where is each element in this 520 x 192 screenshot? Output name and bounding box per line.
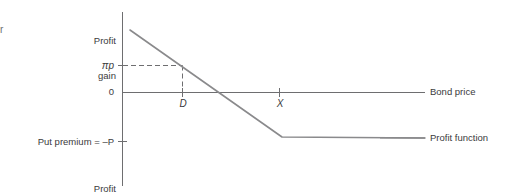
y-tick-label-pi-p: πp (78, 60, 114, 72)
x-tick-label-x: X (269, 98, 291, 110)
y-tick-label-put-premium: Put premium = –P (14, 136, 114, 148)
y-tick-label-zero: 0 (88, 86, 114, 98)
y-axis-bottom-label-line1: Profit (60, 183, 116, 192)
series-label-profit-function: Profit function (430, 132, 516, 144)
x-tick-label-d: D (172, 98, 194, 110)
put-option-profit-diagram: r Profit gain πp 0 Put premium = –P (0, 0, 520, 192)
series-label-bond-price: Bond price (430, 86, 516, 98)
y-axis-bottom-label: Profit loss (60, 160, 116, 192)
profit-function-curve (130, 30, 425, 138)
y-axis-top-label-line1: Profit (60, 35, 116, 47)
